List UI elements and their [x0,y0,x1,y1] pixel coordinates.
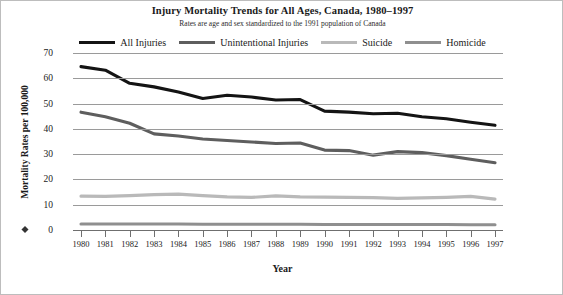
chart-figure: Injury Mortality Trends for All Ages, Ca… [0,0,563,295]
x-axis-tick [227,231,228,237]
x-axis-tick [154,231,155,237]
x-axis-tick [495,231,496,237]
plot-area [73,53,503,230]
y-axis-tick-label: 60 [1,73,53,83]
x-axis-tick [446,231,447,237]
series-line [81,194,495,199]
x-axis-tick [81,231,82,237]
series-line [81,67,495,126]
legend-swatch-icon [321,41,357,44]
x-axis-tick [398,231,399,237]
y-axis-tick-label: 50 [1,99,53,109]
y-axis-tick-label: 0 [1,225,53,235]
legend-item: Homicide [405,37,485,48]
chart-title: Injury Mortality Trends for All Ages, Ca… [1,5,563,16]
x-axis-tick-labels: 1980198119821983198419851986198719881989… [73,239,503,253]
legend-item: Unintentional Injuries [179,37,308,48]
x-axis-tick [105,231,106,237]
x-axis-tick [300,231,301,237]
gridline [73,129,503,130]
y-axis-tick-label: 10 [1,200,53,210]
legend-label: Suicide [362,37,392,48]
y-axis-tick-label: 40 [1,124,53,134]
legend-swatch-icon [179,41,215,44]
gridline [73,205,503,206]
y-axis-tick-labels: 010203040506070 [1,53,73,230]
x-axis-tick [325,231,326,237]
x-axis-title: Year [1,263,563,274]
series-lines [73,53,503,230]
gridline [73,104,503,105]
x-axis-tick [471,231,472,237]
series-line [81,112,495,163]
legend-label: Unintentional Injuries [220,37,308,48]
legend-item: All Injuries [79,37,166,48]
legend-label: Homicide [446,37,485,48]
y-axis-tick-label: 70 [1,48,53,58]
x-axis-tick [373,231,374,237]
x-axis-ticks [73,231,503,237]
x-axis-tick [422,231,423,237]
x-axis-tick [130,231,131,237]
legend-swatch-icon [405,41,441,44]
series-line [81,224,495,225]
legend-label: All Injuries [120,37,166,48]
gridline [73,78,503,79]
gridline [73,154,503,155]
chart-legend: All InjuriesUnintentional InjuriesSuicid… [1,37,563,48]
x-axis-tick-label: 1997 [478,239,512,249]
x-axis-tick [276,231,277,237]
chart-subtitle: Rates are age and sex standardized to th… [1,19,563,28]
legend-swatch-icon [79,41,115,44]
x-axis-tick [251,231,252,237]
gridline [73,53,503,54]
x-axis-tick [203,231,204,237]
x-axis-tick [349,231,350,237]
y-axis-tick-label: 30 [1,149,53,159]
x-axis-tick [178,231,179,237]
legend-item: Suicide [321,37,392,48]
y-axis-tick-label: 20 [1,174,53,184]
gridline [73,179,503,180]
